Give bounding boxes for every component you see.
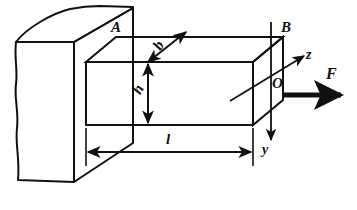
label-origin-o: O: [272, 76, 283, 91]
wall-right-face: [74, 8, 133, 182]
cantilever-beam-figure: A B O F z y l h b: [0, 0, 357, 210]
label-force-f: F: [326, 66, 337, 82]
diagram-canvas: [0, 0, 357, 210]
label-point-a: A: [111, 20, 121, 35]
label-axis-y: y: [262, 143, 268, 157]
beam-top-face: [86, 37, 283, 62]
label-dimension-l: l: [166, 132, 170, 147]
label-point-b: B: [281, 20, 291, 35]
beam-front-face: [86, 62, 253, 125]
label-axis-z: z: [306, 48, 311, 62]
wall-front-face: [15, 42, 74, 182]
